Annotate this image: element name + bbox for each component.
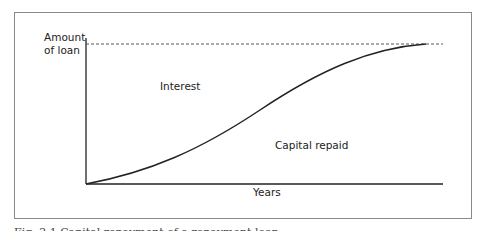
y-axis-label-line1: Amount [44,31,85,44]
capital-repaid-curve [86,44,426,184]
figure-caption: Fig. 2.1 Capital repayment of a repaymen… [14,226,279,231]
x-axis-label: Years [253,186,281,199]
capital-repaid-region-label: Capital repaid [275,139,348,152]
y-axis-label: Amount of loan [44,31,85,57]
y-axis-label-line2: of loan [44,44,85,57]
interest-region-label: Interest [160,80,200,93]
